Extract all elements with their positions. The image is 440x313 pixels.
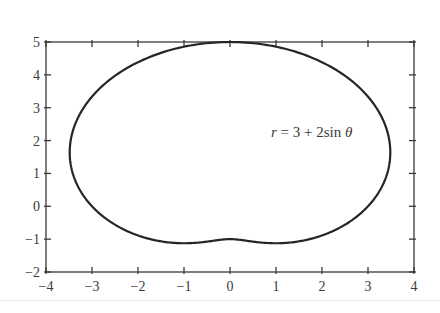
x-tick-label: 1 <box>273 279 280 294</box>
annotation-rest: = 3 + 2sin <box>277 124 345 140</box>
x-tick-label: 3 <box>365 279 372 294</box>
x-tick-label: −4 <box>39 279 54 294</box>
y-tick-label: −2 <box>25 265 40 280</box>
y-tick-label: 4 <box>33 68 40 83</box>
limacon-curve <box>70 42 391 243</box>
x-tick-label: −2 <box>131 279 146 294</box>
y-tick-label: 1 <box>33 166 40 181</box>
y-tick-label: −1 <box>25 232 40 247</box>
plot-frame <box>46 42 414 272</box>
y-tick-label: 3 <box>33 101 40 116</box>
equation-annotation: r = 3 + 2sin θ <box>271 124 353 140</box>
limacon-chart: −4−3−2−101234 −2−1012345 r = 3 + 2sin θ <box>0 0 440 313</box>
bottom-divider <box>0 300 440 301</box>
x-tick-labels: −4−3−2−101234 <box>39 279 418 294</box>
x-tick-label: −3 <box>85 279 100 294</box>
y-tick-labels: −2−1012345 <box>25 35 40 280</box>
y-tick-label: 0 <box>33 199 40 214</box>
annotation-theta: θ <box>345 124 353 140</box>
y-tick-label: 5 <box>33 35 40 50</box>
x-tick-label: 4 <box>411 279 418 294</box>
x-tick-label: −1 <box>177 279 192 294</box>
y-tick-label: 2 <box>33 134 40 149</box>
x-tick-label: 2 <box>319 279 326 294</box>
x-tick-label: 0 <box>227 279 234 294</box>
